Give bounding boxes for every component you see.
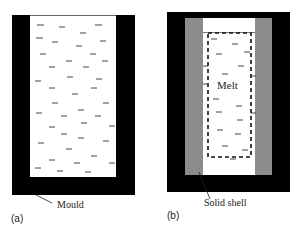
solid-shell-label: Solid shell [204, 197, 247, 208]
melt-label: Melt [217, 79, 238, 91]
panel-b-caption: (b) [167, 210, 179, 221]
panel-a-caption: (a) [11, 213, 23, 224]
panel-b-melt-region [203, 32, 255, 175]
panel-a-leader-line [36, 195, 52, 203]
panel-a-mould [12, 15, 135, 195]
diagram-canvas [0, 0, 302, 236]
mould-label: Mould [57, 199, 84, 210]
